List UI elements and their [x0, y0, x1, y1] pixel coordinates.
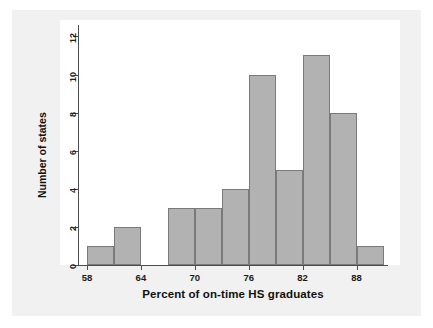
x-tick-label: 70: [190, 272, 201, 283]
histogram-bar: [114, 227, 141, 265]
y-tick-label: 12: [68, 33, 78, 43]
y-tick-label: 4: [68, 188, 78, 193]
y-axis-title: Number of states: [36, 112, 48, 198]
y-tick-label: 8: [68, 112, 78, 117]
x-tick-label: 82: [297, 272, 308, 283]
y-tick-label: 2: [68, 226, 78, 231]
histogram-bar: [249, 75, 276, 265]
x-tick-label: 64: [136, 272, 147, 283]
histogram-bar: [276, 170, 303, 265]
y-tick-label: 10: [68, 72, 78, 82]
x-tick-mark: [249, 265, 250, 270]
histogram-bar: [303, 55, 330, 265]
histogram-bar: [168, 208, 195, 265]
histogram-bar: [222, 189, 249, 265]
x-tick-label: 76: [243, 272, 254, 283]
histogram-bar: [195, 208, 222, 265]
x-tick-label: 58: [82, 272, 93, 283]
x-tick-mark: [357, 265, 358, 270]
histogram-plot: 024681012 586470768288 Number of states …: [0, 0, 433, 328]
histogram-bar: [87, 246, 114, 265]
y-tick-label: 0: [68, 264, 78, 269]
x-axis-title: Percent of on-time HS graduates: [78, 288, 388, 300]
x-tick-mark: [141, 265, 142, 270]
x-tick-mark: [303, 265, 304, 270]
x-tick-mark: [195, 265, 196, 270]
histogram-bar: [330, 113, 357, 265]
y-tick-label: 6: [68, 150, 78, 155]
x-axis-line: [78, 265, 388, 266]
histogram-bar: [357, 246, 384, 265]
x-tick-label: 88: [351, 272, 362, 283]
y-axis-line: [78, 25, 79, 266]
x-tick-mark: [87, 265, 88, 270]
figure: 024681012 586470768288 Number of states …: [0, 0, 433, 328]
